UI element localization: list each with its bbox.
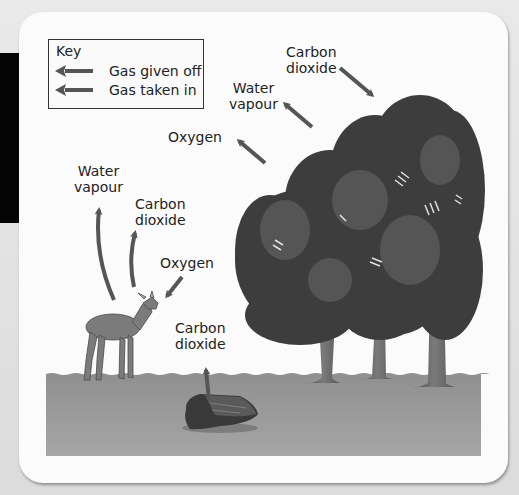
label-line: dioxide xyxy=(286,60,337,76)
label-line: Carbon xyxy=(135,196,186,212)
deer-illustration xyxy=(84,291,158,380)
label-line: dioxide xyxy=(135,212,186,228)
label-line: dioxide xyxy=(175,336,226,352)
label-line: vapour xyxy=(74,179,123,195)
key-label: Gas taken in xyxy=(109,82,197,98)
label-line: Water xyxy=(74,163,123,179)
trees-illustration xyxy=(235,95,485,387)
key-legend: Key Gas given off Gas taken in xyxy=(48,39,204,109)
key-title: Key xyxy=(56,43,81,59)
key-item-gas-given-off: Gas given off xyxy=(55,62,201,80)
arrow-deer-water-out xyxy=(98,210,114,300)
label-trees-water-vapour: Water vapour xyxy=(229,80,278,112)
key-item-gas-taken-in: Gas taken in xyxy=(55,81,197,99)
label-deer-oxygen: Oxygen xyxy=(160,255,214,271)
label-trees-carbon-dioxide: Carbon dioxide xyxy=(286,44,337,76)
label-line: Carbon xyxy=(175,320,226,336)
arrow-deer-oxygen-in xyxy=(167,277,182,296)
label-line: vapour xyxy=(229,96,278,112)
arrow-trees-water-out xyxy=(285,104,312,127)
arrow-trees-co2-in xyxy=(340,68,372,95)
arrow-deer-co2-out xyxy=(131,233,135,287)
label-deer-carbon-dioxide: Carbon dioxide xyxy=(135,196,186,228)
rotting-log-illustration xyxy=(182,394,258,433)
left-arrow-icon xyxy=(55,64,93,78)
label-log-carbon-dioxide: Carbon dioxide xyxy=(175,320,226,352)
label-deer-water-vapour: Water vapour xyxy=(74,163,123,195)
left-arrow-icon xyxy=(55,83,93,97)
label-trees-oxygen: Oxygen xyxy=(168,129,222,145)
arrow-trees-oxygen-out xyxy=(239,141,265,163)
label-line: Carbon xyxy=(286,44,337,60)
key-label: Gas given off xyxy=(109,63,201,79)
label-line: Water xyxy=(229,80,278,96)
